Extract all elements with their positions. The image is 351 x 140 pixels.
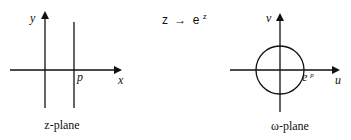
- z-plane: y x p z-plane: [10, 11, 124, 132]
- mapping-exponent: z: [203, 12, 207, 21]
- v-axis-label: v: [266, 11, 272, 25]
- x-axis-label: x: [117, 73, 124, 87]
- mapping-arrow: →: [174, 13, 186, 27]
- mapping-label: z → e z: [162, 12, 207, 27]
- p-label: p: [76, 70, 83, 84]
- omega-plane: v u e p ω-plane: [230, 11, 341, 133]
- mapping-lhs: z: [162, 13, 168, 27]
- u-axis-label: u: [335, 73, 341, 87]
- y-axis-label: y: [29, 11, 36, 25]
- z-plane-caption: z-plane: [44, 118, 79, 132]
- circle-radius-label: e p: [302, 70, 314, 84]
- conformal-map-diagram: y x p z-plane z → e z v u e p ω-plane: [0, 0, 351, 140]
- mapping-base: e: [193, 13, 200, 27]
- omega-plane-caption: ω-plane: [271, 119, 309, 133]
- svg-text:z → e z: z → e z: [162, 12, 207, 27]
